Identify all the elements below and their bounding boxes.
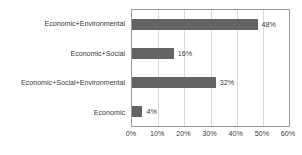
category-label: Economic	[94, 108, 125, 117]
bar	[132, 106, 142, 117]
bar-value-label: 32%	[220, 78, 234, 87]
x-axis: 0%10%20%30%40%50%60%	[131, 129, 290, 143]
category-label: Economic+Social	[70, 49, 125, 58]
x-tick-label: 60%	[281, 129, 295, 138]
x-tick-label: 10%	[150, 129, 164, 138]
bar-value-label: 4%	[146, 107, 156, 116]
x-tick-label: 40%	[228, 129, 242, 138]
bar-row: 48%	[132, 10, 289, 39]
bar-value-label: 48%	[262, 20, 276, 29]
category-label: Economic+Environmental	[44, 19, 125, 28]
bar-chart: Economic+Environmental Economic+Social E…	[0, 0, 302, 155]
plot-area: 48% 16% 32% 4%	[131, 9, 290, 127]
x-tick-label: 50%	[255, 129, 269, 138]
bar-row: 16%	[132, 39, 289, 68]
bar-row: 32%	[132, 68, 289, 97]
category-tick: Economic	[0, 98, 128, 128]
x-tick-label: 20%	[176, 129, 190, 138]
category-label: Economic+Social+Environmental	[21, 78, 125, 87]
bar	[132, 19, 258, 30]
bar	[132, 77, 216, 88]
category-tick: Economic+Social+Environmental	[0, 68, 128, 98]
category-tick: Economic+Social	[0, 39, 128, 69]
bar	[132, 48, 174, 59]
x-tick-label: 0%	[126, 129, 136, 138]
bar-row: 4%	[132, 97, 289, 126]
bar-value-label: 16%	[178, 49, 192, 58]
x-tick-label: 30%	[202, 129, 216, 138]
category-tick: Economic+Environmental	[0, 9, 128, 39]
bars-layer: 48% 16% 32% 4%	[132, 10, 289, 126]
category-axis: Economic+Environmental Economic+Social E…	[0, 9, 128, 127]
